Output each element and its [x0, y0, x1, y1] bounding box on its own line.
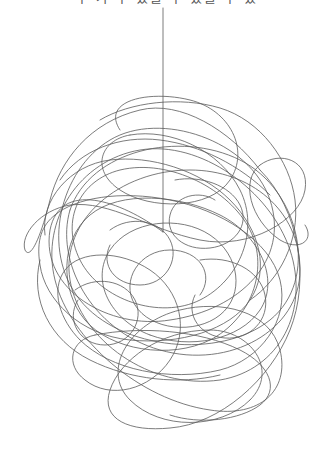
scribble-ball-illustration: [0, 0, 334, 460]
